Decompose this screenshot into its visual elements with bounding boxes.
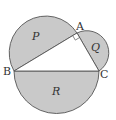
label-q: Q	[91, 41, 100, 54]
triangle-semicircles-diagram: A B C P Q R	[0, 0, 116, 120]
label-c: C	[100, 68, 108, 81]
label-b: B	[3, 65, 11, 78]
label-r: R	[51, 85, 60, 98]
label-a: A	[75, 20, 85, 33]
label-p: P	[31, 30, 40, 43]
